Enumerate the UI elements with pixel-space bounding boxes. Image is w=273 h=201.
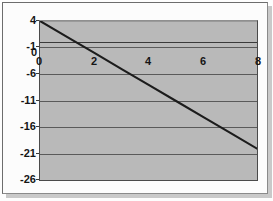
plot-area <box>39 20 258 181</box>
y-tick-label: -6 <box>0 68 36 79</box>
y-tick-label: -11 <box>0 95 36 106</box>
x-tick-label: 8 <box>248 56 268 67</box>
x-tick-label: 6 <box>193 56 213 67</box>
series-line <box>40 21 258 150</box>
chart-figure: 4 -1 -6 -11 -16 -21 -26 0 0 2 <box>0 0 273 201</box>
x-tick-label: 0 <box>29 56 49 67</box>
x-tick-label: 4 <box>138 56 158 67</box>
y-tick-label: -21 <box>0 148 36 159</box>
y-tick-label: 4 <box>0 15 36 26</box>
series-line-group <box>40 21 258 181</box>
y-tick-label: -16 <box>0 121 36 132</box>
x-tick-label: 2 <box>84 56 104 67</box>
y-tick-label: -26 <box>0 174 36 185</box>
gridline--26 <box>40 180 257 181</box>
